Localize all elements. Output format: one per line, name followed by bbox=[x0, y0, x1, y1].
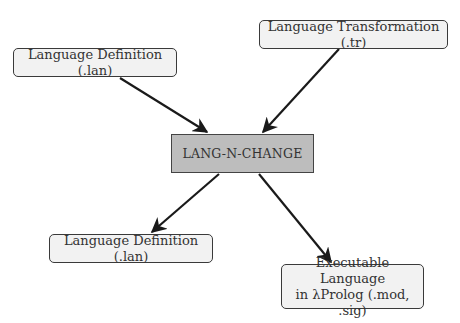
executable-language-node: Executable Language in λProlog (.mod, .s… bbox=[281, 264, 424, 309]
lang-n-change-node: LANG-N-CHANGE bbox=[171, 134, 314, 173]
input-language-definition-node: Language Definition (.lan) bbox=[13, 48, 177, 77]
edge-center-to-output-definition bbox=[152, 174, 219, 232]
edge-center-to-executable bbox=[259, 174, 331, 262]
language-transformation-label: Language Transformation (.tr) bbox=[260, 19, 447, 51]
language-transformation-node: Language Transformation (.tr) bbox=[259, 20, 448, 49]
executable-language-line1: Executable Language bbox=[282, 255, 423, 287]
edge-transformation-to-center bbox=[263, 49, 339, 132]
edge-input-definition-to-center bbox=[120, 78, 207, 132]
lang-n-change-label: LANG-N-CHANGE bbox=[182, 146, 302, 162]
output-language-definition-label: Language Definition (.lan) bbox=[50, 233, 212, 265]
executable-language-line2: in λProlog (.mod, .sig) bbox=[282, 287, 423, 319]
output-language-definition-node: Language Definition (.lan) bbox=[49, 234, 213, 263]
input-language-definition-label: Language Definition (.lan) bbox=[14, 47, 176, 79]
